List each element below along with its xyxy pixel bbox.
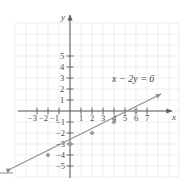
coordinate-plane: [0, 0, 190, 190]
graph-figure: −3 −2 −1 1 2 3 4 5 6 7 5 4 3 2 1 −1 −2 −…: [0, 0, 190, 190]
x-tick-label-3: 3: [101, 114, 105, 123]
y-tick-label--5: −5: [56, 162, 65, 171]
equation-annotation: x − 2y = 6: [112, 74, 154, 84]
x-tick-label-1: 1: [79, 114, 83, 123]
y-tick-label-3: 3: [60, 74, 64, 83]
y-axis-label: y: [61, 13, 65, 22]
y-tick-label--3: −3: [56, 140, 65, 149]
x-tick-label--3: −3: [28, 114, 37, 123]
point-0-neg3: [68, 142, 73, 147]
x-tick-label-5: 5: [123, 114, 127, 123]
point-neg2-neg4: [46, 153, 50, 157]
y-tick-label--2: −2: [56, 129, 65, 138]
y-tick-label-1: 1: [60, 96, 64, 105]
y-tick-label--1: −1: [56, 118, 65, 127]
x-tick-label-6: 6: [134, 114, 138, 123]
y-tick-label-2: 2: [60, 85, 64, 94]
x-tick-label-7: 7: [145, 114, 149, 123]
y-tick-label-5: 5: [60, 52, 64, 61]
x-tick-label--2: −2: [39, 114, 48, 123]
graph-line-x-minus-2y-equals-6: [12, 94, 162, 169]
y-tick-label--4: −4: [56, 151, 65, 160]
x-tick-label-2: 2: [90, 114, 94, 123]
point-2-neg2: [90, 131, 94, 135]
x-tick-label-4: 4: [112, 114, 116, 123]
y-tick-label-4: 4: [60, 63, 64, 72]
x-axis-label: x: [172, 113, 176, 122]
